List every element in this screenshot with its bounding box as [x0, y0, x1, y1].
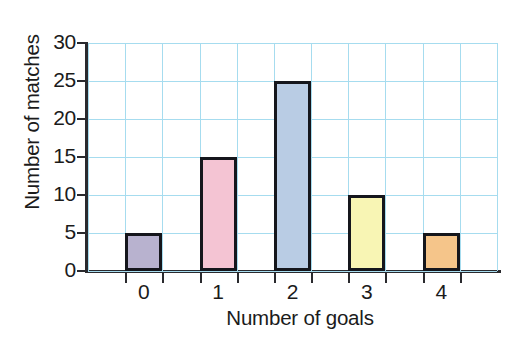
gridline-vertical [88, 43, 89, 271]
y-axis-tick [77, 270, 88, 272]
gridline-horizontal [88, 271, 497, 272]
y-axis-tick [77, 194, 88, 196]
y-axis-label-5: 5 [30, 220, 76, 244]
gridline-vertical [497, 43, 498, 271]
plot-area [88, 43, 497, 271]
y-axis-label-10: 10 [30, 182, 76, 206]
y-axis-tick [77, 42, 88, 44]
y-axis-label-20: 20 [30, 106, 76, 130]
y-axis-label-15: 15 [30, 144, 76, 168]
gridline-vertical [311, 43, 312, 271]
x-axis-label-2: 2 [273, 280, 313, 304]
x-axis-label-3: 3 [347, 280, 387, 304]
bar-2 [274, 81, 311, 271]
bar-chart: Number of matches 051015202530 Number of… [0, 0, 522, 346]
x-axis-label-0: 0 [124, 280, 164, 304]
bar-4 [423, 233, 460, 271]
gridline-vertical [237, 43, 238, 271]
y-axis-tick [77, 156, 88, 158]
bar-0 [125, 233, 162, 271]
y-axis-label-30: 30 [30, 30, 76, 54]
x-axis-label-1: 1 [198, 280, 238, 304]
y-axis-tick [77, 232, 88, 234]
gridline-horizontal [88, 43, 497, 44]
x-axis-label-4: 4 [421, 280, 461, 304]
y-axis-tick-labels: 051015202530 [24, 0, 76, 346]
y-axis-tick [77, 118, 88, 120]
y-axis-label-0: 0 [30, 258, 76, 282]
y-axis-tick [77, 80, 88, 82]
bar-3 [348, 195, 385, 271]
x-axis-title: Number of goals [95, 306, 505, 330]
bar-1 [200, 157, 237, 271]
gridline-vertical [460, 43, 461, 271]
y-axis-label-25: 25 [30, 68, 76, 92]
